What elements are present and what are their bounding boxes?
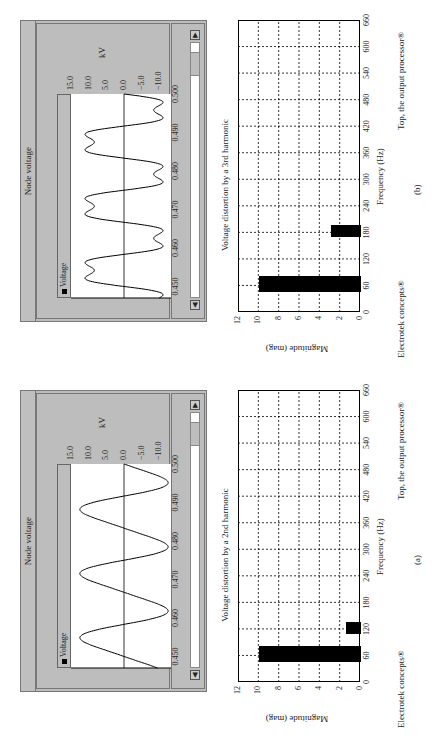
magnitude-tick-label: 8	[274, 686, 283, 700]
magnitude-tick-label: 10	[253, 686, 262, 700]
frequency-tick-label: 0	[362, 310, 371, 314]
frequency-tick-label: 120	[362, 623, 371, 635]
magnitude-tick-label: 8	[274, 316, 283, 330]
x-axis-label: Frequency (Hz)	[375, 148, 385, 205]
y-tick-label: −5.0	[137, 430, 146, 460]
x-tick-label: 0.490	[171, 124, 180, 142]
scroll-right-button[interactable]: ▶	[190, 400, 200, 410]
y-tick-label: 0.0	[119, 430, 128, 460]
node-voltage-plot-area: Voltage15.010.05.00.0−5.0−10.0−15.015.01…	[36, 23, 170, 319]
frequency-tick-label: 60	[362, 281, 371, 289]
frequency-tick-label: 300	[362, 173, 371, 185]
figure-label: (a)	[412, 555, 422, 565]
time-scrollbar-row: 0.4500.4600.4700.4800.4900.500◀▶	[171, 393, 205, 689]
frequency-tick-label: 300	[362, 543, 371, 555]
credit-left: Electrotek concepts®	[396, 650, 406, 728]
frequency-tick-label: 540	[362, 67, 371, 79]
x-tick-label: 0.480	[171, 532, 180, 550]
y-tick-label: 10.0	[84, 430, 93, 460]
magnitude-tick-label: 0	[355, 316, 364, 330]
frequency-tick-label: 660	[362, 384, 371, 396]
y-axis-label: kV	[97, 47, 107, 58]
x-tick-label: 0.470	[171, 570, 180, 588]
y-axis-label: Magnitude (mag)	[266, 714, 329, 724]
y-tick-label: −10.0	[154, 60, 163, 90]
frequency-tick-label: 420	[362, 490, 371, 502]
y-tick-label: 10.0	[84, 60, 93, 90]
credit-left: Electrotek concepts®	[396, 280, 406, 358]
magnitude-tick-label: 2	[335, 316, 344, 330]
frequency-tick-label: 600	[362, 41, 371, 53]
y-tick-label: 0.0	[119, 60, 128, 90]
magnitude-tick-label: 6	[294, 316, 303, 330]
frequency-tick-label: 60	[362, 651, 371, 659]
x-tick-label: 0.470	[171, 200, 180, 218]
credit-right: Top, the output processor®	[396, 402, 406, 500]
scrollbar-thumb[interactable]	[190, 422, 200, 446]
frequency-tick-label: 540	[362, 437, 371, 449]
scroll-left-button[interactable]: ◀	[190, 300, 200, 310]
magnitude-tick-label: 10	[253, 316, 262, 330]
y-tick-label: 15.0	[66, 60, 75, 90]
frequency-tick-label: 360	[362, 147, 371, 159]
magnitude-tick-label: 12	[233, 686, 242, 700]
y-axis-label: Magnitude (mag)	[266, 344, 329, 354]
figure-a: Node voltageVoltage15.010.05.00.0−5.0−10…	[0, 370, 439, 740]
time-scrollbar-row: 0.4500.4600.4700.4800.4900.500◀▶	[171, 23, 205, 319]
grid-lines	[238, 20, 360, 312]
bar-120hz	[346, 622, 361, 634]
x-tick-label: 0.450	[171, 277, 180, 295]
magnitude-tick-label: 0	[355, 686, 364, 700]
bar-chart-title: Voltage distortion by a 3rd harmonic	[220, 0, 230, 370]
magnitude-tick-label: 6	[294, 686, 303, 700]
figure-b-frame: Node voltageVoltage15.010.05.00.0−5.0−10…	[0, 0, 439, 370]
scroll-right-button[interactable]: ▶	[190, 30, 200, 40]
frequency-tick-label: 600	[362, 411, 371, 423]
scrollbar-track[interactable]	[190, 412, 200, 668]
x-tick-label: 0.450	[171, 647, 180, 665]
y-tick-label: 5.0	[101, 430, 110, 460]
frequency-tick-label: 480	[362, 94, 371, 106]
bar-60hz	[259, 646, 361, 662]
x-tick-label: 0.460	[171, 609, 180, 627]
scrollbar-track[interactable]	[190, 42, 200, 298]
x-tick-label: 0.480	[171, 162, 180, 180]
frequency-tick-label: 240	[362, 570, 371, 582]
scrollbar-thumb[interactable]	[190, 52, 200, 76]
node-voltage-title: Node voltage	[21, 21, 36, 321]
grid-lines	[238, 390, 360, 682]
figure-b: Node voltageVoltage15.010.05.00.0−5.0−10…	[0, 0, 439, 370]
x-tick-label: 0.500	[171, 455, 180, 473]
frequency-tick-label: 120	[362, 253, 371, 265]
credit-right: Top, the output processor®	[396, 32, 406, 130]
y-tick-label: 5.0	[101, 60, 110, 90]
harmonic-spectrum-plot	[238, 20, 360, 312]
magnitude-tick-label: 4	[314, 686, 323, 700]
y-tick-label: −10.0	[154, 430, 163, 460]
x-tick-label: 0.460	[171, 239, 180, 257]
magnitude-tick-label: 2	[335, 686, 344, 700]
scroll-left-button[interactable]: ◀	[190, 670, 200, 680]
frequency-tick-label: 180	[362, 226, 371, 238]
bar-chart-title: Voltage distortion by a 2nd harmonic	[220, 370, 230, 740]
frequency-tick-label: 240	[362, 200, 371, 212]
x-axis-label: Frequency (Hz)	[375, 518, 385, 575]
node-voltage-title: Node voltage	[21, 391, 36, 691]
node-voltage-window: Node voltageVoltage15.010.05.00.0−5.0−10…	[20, 20, 207, 322]
frequency-tick-label: 0	[362, 680, 371, 684]
magnitude-tick-label: 4	[314, 316, 323, 330]
frequency-tick-label: 360	[362, 517, 371, 529]
frequency-tick-label: 660	[362, 14, 371, 26]
frequency-tick-label: 480	[362, 464, 371, 476]
figure-a-frame: Node voltageVoltage15.010.05.00.0−5.0−10…	[0, 370, 439, 740]
frequency-tick-label: 180	[362, 596, 371, 608]
frequency-tick-label: 420	[362, 120, 371, 132]
node-voltage-window: Node voltageVoltage15.010.05.00.0−5.0−10…	[20, 390, 207, 692]
bar-180hz	[331, 225, 362, 237]
x-tick-label: 0.500	[171, 85, 180, 103]
x-tick-label: 0.490	[171, 494, 180, 512]
bar-60hz	[259, 276, 361, 292]
y-tick-label: 15.0	[66, 430, 75, 460]
harmonic-spectrum-plot	[238, 390, 360, 682]
y-axis-label: kV	[97, 417, 107, 428]
